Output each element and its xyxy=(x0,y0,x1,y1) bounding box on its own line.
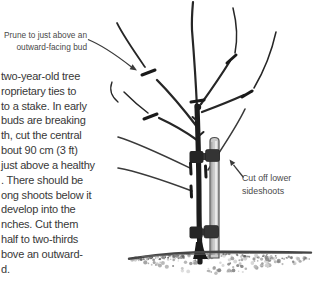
prune-arrow-head xyxy=(130,64,137,70)
soil-dot xyxy=(233,260,237,264)
soil-dot xyxy=(178,257,180,259)
soil-dot xyxy=(251,261,255,265)
soil-dot xyxy=(217,268,221,272)
cut-mark-sideshoot-left-upper xyxy=(191,163,192,174)
body-text-line: develop into the xyxy=(1,202,113,217)
branch-outer-right xyxy=(202,95,244,112)
central-leader xyxy=(192,2,197,108)
soil-dot xyxy=(257,260,259,262)
soil-dot xyxy=(155,257,156,258)
body-text-line: roprietary ties to xyxy=(1,84,113,99)
soil-dot xyxy=(240,265,242,267)
soil-dot xyxy=(262,256,263,257)
soil-dot xyxy=(151,264,153,266)
soil-dot xyxy=(172,259,175,262)
trunk-stub-right xyxy=(200,132,204,135)
cut-mark-sideshoot-right xyxy=(206,166,207,177)
soil-dot xyxy=(161,261,165,265)
soil-dot xyxy=(243,255,245,257)
soil-dot xyxy=(159,261,161,263)
soil-dot xyxy=(247,256,249,258)
body-text-line: two-year-old tree xyxy=(1,69,113,84)
body-text-line: just above a healthy xyxy=(1,158,113,173)
soil-dot xyxy=(236,264,239,267)
body-text-line: ong shoots below it xyxy=(1,188,113,203)
soil-dot xyxy=(221,255,222,256)
main-branches xyxy=(111,2,276,140)
soil-dot xyxy=(277,259,281,263)
cut-mark-upper-left xyxy=(142,70,155,75)
cut-callout-line2: sideshoots xyxy=(242,185,291,198)
branch-outer-right-removed-tip xyxy=(254,32,276,88)
body-text-line: bout 90 cm (3 ft) xyxy=(1,143,113,158)
soil-dot xyxy=(186,270,190,274)
soil-dot xyxy=(273,259,275,261)
soil-dot xyxy=(283,258,285,260)
soil-dot xyxy=(181,267,184,270)
soil-dot xyxy=(270,257,271,258)
soil-dot xyxy=(165,265,169,269)
cut-mark-sideshoot-left-lower xyxy=(191,186,192,197)
tie-upper-block-stake xyxy=(206,150,220,162)
soil-dot xyxy=(265,257,269,261)
soil-dot xyxy=(238,270,240,272)
soil-dot xyxy=(286,257,287,258)
trunk-base xyxy=(193,242,208,259)
trunk-crown-junction xyxy=(195,104,201,110)
tie-upper-block-trunk xyxy=(190,151,204,163)
tie-lower-block-trunk xyxy=(190,227,203,239)
soil-dot xyxy=(229,262,231,264)
soil-dot xyxy=(140,258,143,261)
soil-dot xyxy=(288,256,290,258)
soil-dot xyxy=(265,263,269,267)
book-page-figure: Prune to just above an outward-facing bu… xyxy=(0,0,319,282)
soil-dot xyxy=(182,255,184,257)
soil-dot xyxy=(153,261,156,264)
soil-dot xyxy=(238,259,240,261)
cut-callout-label: Cut off lower sideshoots xyxy=(242,172,291,198)
soil-dot xyxy=(257,257,258,258)
soil-dot xyxy=(252,257,255,260)
soil-dot xyxy=(304,257,307,260)
soil-dot xyxy=(304,259,305,260)
soil-dot xyxy=(151,258,152,259)
soil-dot xyxy=(308,258,310,260)
soil-dot xyxy=(148,258,149,259)
soil-dot xyxy=(210,271,211,272)
left-sideshoot-upper xyxy=(118,137,190,168)
soil-dot xyxy=(232,266,234,268)
body-text-line: bove an outward- xyxy=(1,247,113,262)
branch-inner-right xyxy=(201,61,230,104)
soil-dot xyxy=(230,270,233,273)
body-text-column: two-year-old treeroprietary ties toto a … xyxy=(1,69,113,276)
soil-dot xyxy=(143,258,145,260)
soil-dot xyxy=(219,261,222,264)
soil-dot xyxy=(152,259,155,262)
cut-callout-line1: Cut off lower xyxy=(242,172,291,185)
cut-mark-mid-left xyxy=(144,114,157,119)
soil-dot xyxy=(189,262,193,266)
branch-mid-left-removed-tip xyxy=(124,92,148,113)
tie-lower-block-stake xyxy=(204,226,219,239)
soil-dot xyxy=(242,271,244,273)
soil-dot xyxy=(212,267,215,270)
soil-dot xyxy=(161,256,164,259)
soil-dot xyxy=(208,270,211,273)
body-text-line: th, cut the central xyxy=(1,128,113,143)
soil-dot xyxy=(178,260,179,261)
soil-dot xyxy=(221,264,224,267)
prune-callout-line1: Prune to just above an xyxy=(0,30,87,42)
soil-dot xyxy=(290,256,293,259)
body-text-line: to a stake. In early xyxy=(1,99,113,114)
soil-dot xyxy=(165,257,166,258)
soil-dot xyxy=(281,263,283,265)
soil-dot xyxy=(148,262,150,264)
soil-dot xyxy=(158,264,162,268)
soil-dot xyxy=(155,264,157,266)
soil-dot xyxy=(241,258,244,261)
body-text-line: buds are breaking xyxy=(1,113,113,128)
body-text-line: d. xyxy=(1,262,113,277)
soil-dot xyxy=(167,257,169,259)
cut-mark-inner-right xyxy=(227,55,236,63)
soil-dot xyxy=(254,265,258,269)
